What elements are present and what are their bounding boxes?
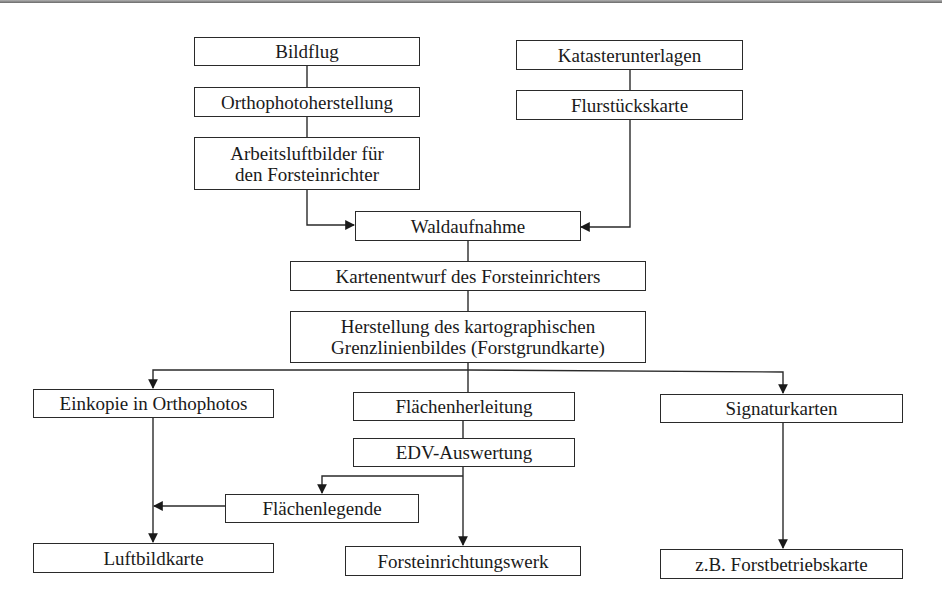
node-label: Flurstückskarte (571, 95, 688, 116)
node-herstellung-grenzlinienbild: Herstellung des kartographischen Grenzli… (290, 311, 646, 363)
node-label: Katasterunterlagen (558, 45, 701, 66)
node-edv-auswertung: EDV-Auswertung (353, 438, 575, 467)
node-flurstueckskarte: Flurstückskarte (516, 90, 743, 120)
node-label: Luftbildkarte (103, 548, 203, 569)
node-label: EDV-Auswertung (396, 442, 533, 463)
node-bildflug: Bildflug (194, 37, 420, 66)
node-luftbildkarte: Luftbildkarte (33, 543, 274, 573)
node-einkopie-orthophotos: Einkopie in Orthophotos (33, 389, 274, 418)
node-label: Flächenherleitung (395, 396, 532, 417)
node-label: Arbeitsluftbilder für den Forsteinrichte… (230, 143, 384, 185)
node-waldaufnahme: Waldaufnahme (355, 211, 581, 241)
node-label: Waldaufnahme (411, 216, 526, 237)
node-label: Signaturkarten (726, 398, 838, 419)
node-label: Orthophotoherstellung (221, 92, 393, 113)
node-label: Flächenlegende (262, 498, 381, 519)
connector-lines (0, 0, 942, 606)
node-label: z.B. Forstbetriebskarte (695, 554, 868, 575)
node-label: Bildflug (275, 41, 338, 62)
node-katasterunterlagen: Katasterunterlagen (516, 40, 743, 70)
node-flaechenlegende: Flächenlegende (225, 494, 419, 523)
node-signaturkarten: Signaturkarten (660, 394, 903, 423)
node-arbeitsluftbilder: Arbeitsluftbilder für den Forsteinrichte… (194, 137, 420, 190)
node-label: Einkopie in Orthophotos (60, 393, 248, 414)
node-label: Kartenentwurf des Forsteinrichters (336, 266, 601, 287)
node-orthophotoherstellung: Orthophotoherstellung (194, 87, 420, 117)
node-flaechenherleitung: Flächenherleitung (353, 392, 575, 421)
node-label: Forsteinrichtungswerk (378, 551, 549, 572)
node-label: Herstellung des kartographischen Grenzli… (331, 316, 605, 358)
node-kartenentwurf: Kartenentwurf des Forsteinrichters (290, 261, 646, 291)
node-forsteinrichtungswerk: Forsteinrichtungswerk (345, 546, 581, 576)
node-forstbetriebskarte: z.B. Forstbetriebskarte (660, 549, 903, 579)
